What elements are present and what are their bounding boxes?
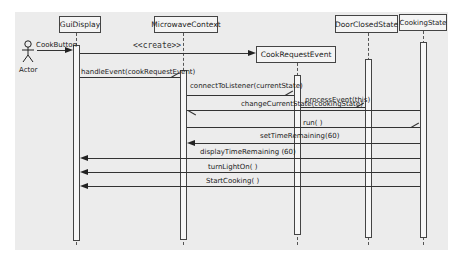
actor-label: Actor (19, 66, 37, 74)
activation-door-closed-state (365, 59, 372, 238)
actor-stick-figure-icon (20, 40, 36, 64)
message-label: handleEvent(cookRequestEvent) (81, 68, 195, 76)
arrowhead-left-icon (80, 183, 88, 189)
message-label: run( ) (303, 119, 322, 127)
activation-gui-display (73, 45, 80, 241)
message-label: displayTimeRemaining (60) (200, 148, 296, 156)
message-turn-light-on-line (88, 172, 420, 173)
message-label: CookButton (36, 41, 77, 49)
message-run-line (187, 127, 420, 128)
arrowhead-left-icon (187, 140, 195, 146)
message-connect-to-listener-line (187, 95, 294, 96)
participant-cook-request-event: CookRequestEvent (256, 46, 336, 63)
arrowhead-left-icon (80, 169, 88, 175)
message-start-cooking-line (88, 186, 420, 187)
participant-cooking-state: CookingState (399, 14, 447, 31)
message-label: changeCurrentState(cookingState) (241, 100, 363, 108)
message-label: connectToListener(currentState) (190, 82, 303, 90)
message-handle-event-line (80, 77, 180, 78)
participant-gui-display: GuiDisplay (59, 16, 101, 33)
message-label: setTimeRemaining(60) (260, 132, 339, 140)
message-label: StartCooking( ) (206, 177, 259, 185)
participant-microwave-context: MicrowaveContext (154, 16, 218, 33)
message-create-line (80, 53, 248, 54)
message-change-current-state-line (187, 110, 420, 111)
participant-door-closed-state: DoorClosedState (335, 15, 398, 33)
activation-cooking-state (420, 42, 427, 238)
message-set-time-remaining-line (195, 143, 420, 144)
arrowhead-left-icon (80, 155, 88, 161)
activation-microwave-context (180, 70, 187, 240)
message-cook-button-line (37, 50, 65, 51)
message-display-time-remaining-line (88, 158, 420, 159)
arrowhead-right-icon (248, 50, 256, 56)
message-label: turnLightOn( ) (208, 163, 257, 171)
message-label: <<create>> (133, 41, 181, 50)
